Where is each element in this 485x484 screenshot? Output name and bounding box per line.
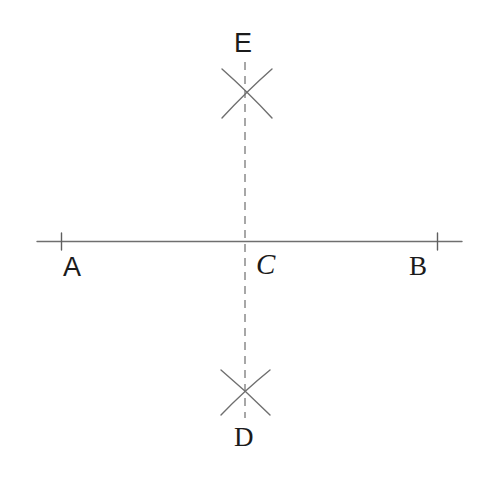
point-label-b: B <box>409 253 427 280</box>
point-label-c: C <box>256 250 275 279</box>
point-label-e: E <box>234 30 252 57</box>
diagram-svg <box>0 0 485 484</box>
point-label-d: D <box>234 424 254 451</box>
point-label-a: A <box>63 254 81 281</box>
arc-cross-mark-e <box>222 69 272 118</box>
geometry-diagram: E C A B D <box>0 0 485 484</box>
